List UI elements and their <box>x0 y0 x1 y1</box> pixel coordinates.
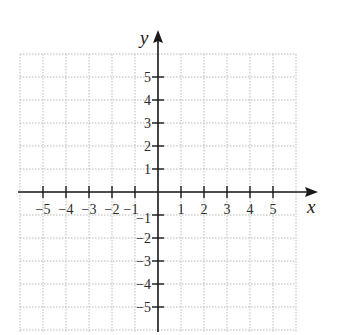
y-tick-label: 5 <box>144 70 151 85</box>
y-axis-label: y <box>138 27 149 48</box>
x-tick-label: 1 <box>178 202 185 217</box>
x-tick-label: 4 <box>247 202 254 217</box>
y-tick-label: −1 <box>136 211 151 226</box>
y-tick-label: −2 <box>136 231 151 246</box>
x-tick-label: −5 <box>36 202 51 217</box>
x-tick-label: −2 <box>105 202 120 217</box>
x-axis-label: x <box>306 196 316 217</box>
coordinate-plane: x y −5−4−3−2−112345−5−4−3−2−112345 <box>0 0 355 335</box>
y-tick-label: 2 <box>144 139 151 154</box>
x-tick-label: −4 <box>59 202 74 217</box>
y-tick-label: −3 <box>136 254 151 269</box>
x-tick-label: 3 <box>224 202 231 217</box>
x-tick-label: 5 <box>270 202 277 217</box>
y-tick-label: 3 <box>144 116 151 131</box>
y-tick-label: 1 <box>144 162 151 177</box>
x-tick-label: −3 <box>82 202 97 217</box>
y-tick-label: 4 <box>144 93 151 108</box>
x-tick-label: 2 <box>201 202 208 217</box>
y-tick-label: −5 <box>136 300 151 315</box>
y-tick-label: −4 <box>136 277 151 292</box>
